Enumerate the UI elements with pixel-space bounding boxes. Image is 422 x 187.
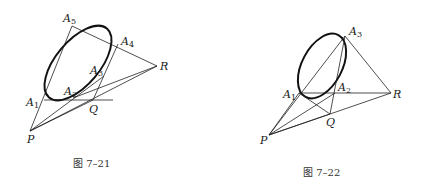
label-a3: A3 <box>348 25 362 39</box>
label-a1: A1 <box>25 96 39 110</box>
label-a4: A4 <box>120 35 134 49</box>
label-a5: A5 <box>62 12 76 26</box>
line-a1-q <box>299 93 330 114</box>
label-a2: A2 <box>63 85 77 99</box>
figure-7-21: A5 A4 R A3 A2 A1 Q P 图 7–21 <box>25 12 168 169</box>
line-a5-r <box>72 26 157 66</box>
label-a1: A1 <box>282 88 296 102</box>
label-r: R <box>392 88 401 101</box>
figure-caption: 图 7–21 <box>73 158 110 169</box>
label-p: P <box>26 133 35 146</box>
label-p: P <box>259 134 268 147</box>
diagram-canvas: A5 A4 R A3 A2 A1 Q P 图 7–21 A3 A1 A2 R Q… <box>0 0 422 187</box>
label-r: R <box>159 60 168 73</box>
label-a3: A3 <box>89 64 103 78</box>
line-p-q <box>30 100 93 131</box>
figure-caption: 图 7–22 <box>303 167 340 178</box>
label-q: Q <box>89 103 98 116</box>
figure-7-22: A3 A1 A2 R Q P 图 7–22 <box>259 25 401 178</box>
line-a3-q <box>330 36 345 114</box>
line-a2-r <box>73 66 157 98</box>
line-a3-r <box>345 36 391 93</box>
label-q: Q <box>326 116 335 129</box>
label-a2: A2 <box>337 81 351 95</box>
